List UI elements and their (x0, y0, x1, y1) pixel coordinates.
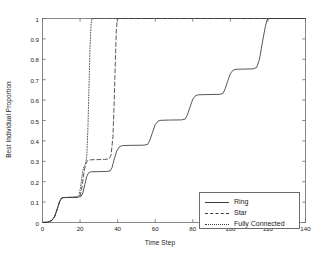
y-tick-label: 0.4 (14, 137, 39, 144)
x-tick-label: 80 (189, 225, 196, 232)
x-tick-label: 60 (152, 225, 159, 232)
legend-item: Star (200, 207, 301, 218)
legend-item: Fully Connected (200, 218, 301, 229)
x-tick-label: 140 (300, 225, 310, 232)
x-tick-label: 0 (41, 225, 44, 232)
y-tick-label: 0.8 (14, 56, 39, 63)
legend-line-sample-dashed (205, 208, 229, 218)
y-tick-label: 0.9 (14, 35, 39, 42)
y-tick-label: 0.3 (14, 158, 39, 165)
chart-legend: RingStarFully Connected (199, 192, 300, 229)
x-tick-label: 20 (77, 225, 84, 232)
y-tick-label: 1 (14, 15, 39, 22)
y-tick-label: 0.6 (14, 97, 39, 104)
legend-line-sample-dotted (205, 219, 229, 229)
x-axis-label: Time Step (0, 239, 320, 246)
y-tick-label: 0 (14, 219, 39, 226)
legend-item-label: Ring (234, 198, 248, 205)
y-tick-label: 0.1 (14, 199, 39, 206)
legend-item: Ring (200, 196, 301, 207)
x-tick-label: 40 (114, 225, 121, 232)
y-tick-label: 0.7 (14, 76, 39, 83)
legend-line-sample-solid (205, 197, 229, 207)
chart-figure: Time Step Best Individual Proportion 020… (0, 0, 320, 258)
y-tick-label: 0.5 (14, 117, 39, 124)
y-tick-label: 0.2 (14, 178, 39, 185)
legend-item-label: Fully Connected (234, 220, 285, 227)
legend-item-label: Star (234, 209, 247, 216)
y-axis-label: Best Individual Proportion (5, 60, 12, 180)
